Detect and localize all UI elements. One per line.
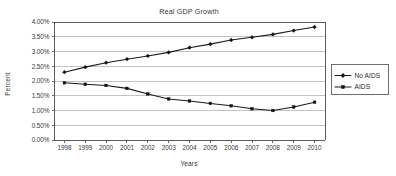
data-point-marker [341,85,344,88]
data-point-marker [84,83,87,86]
data-point-marker [126,87,129,90]
real-gdp-growth-line-chart: Real GDP Growth 0.00%0.50%1.00%1.50%2.00… [0,0,396,176]
data-point-marker [146,93,149,96]
y-axis-title: Percent [4,72,11,95]
data-point-marker [63,81,66,84]
x-tick-label: 2010 [308,144,323,151]
x-tick-label: 2007 [245,144,260,151]
legend: No AIDSAIDS [331,64,388,94]
y-tick-label: 4.00% [32,18,50,25]
data-point-marker [292,106,295,109]
y-axis-tick-labels: 0.00%0.50%1.00%1.50%2.00%2.50%3.00%3.50%… [32,18,50,143]
data-point-marker [272,109,275,112]
x-tick-label: 2009 [287,144,302,151]
data-point-marker [313,101,316,104]
y-tick-label: 1.50% [32,92,50,99]
x-tick-label: 2003 [162,144,177,151]
data-point-marker [230,104,233,107]
x-tick-label: 1999 [78,144,93,151]
data-point-marker [251,107,254,110]
x-tick-label: 2006 [224,144,239,151]
y-tick-label: 0.50% [32,122,50,129]
legend-label: No AIDS [355,72,381,79]
y-tick-label: 2.50% [32,63,50,70]
x-tick-label: 1998 [57,144,72,151]
y-tick-label: 3.50% [32,33,50,40]
data-point-marker [188,100,191,103]
y-tick-label: 3.00% [32,48,50,55]
x-tick-label: 2008 [266,144,281,151]
x-tick-label: 2000 [99,144,114,151]
legend-label: AIDS [355,83,371,90]
y-tick-label: 1.00% [32,107,50,114]
x-tick-label: 2004 [182,144,197,151]
data-point-marker [105,84,108,87]
data-point-marker [167,98,170,101]
x-axis-title: Years [180,160,198,167]
y-tick-label: 2.00% [32,77,50,84]
y-tick-label: 0.00% [32,136,50,143]
data-point-marker [209,102,212,105]
chart-container: Real GDP Growth 0.00%0.50%1.00%1.50%2.00… [0,0,396,176]
chart-title: Real GDP Growth [159,7,219,16]
x-tick-label: 2002 [141,144,156,151]
x-tick-label: 2001 [120,144,135,151]
x-tick-label: 2005 [203,144,218,151]
